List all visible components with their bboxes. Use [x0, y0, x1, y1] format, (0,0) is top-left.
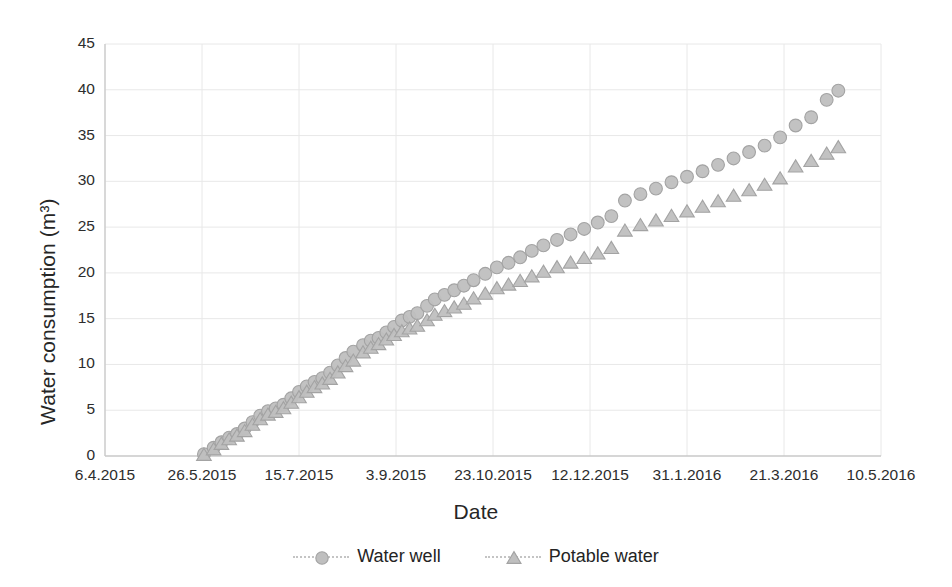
x-tick-4: 23.10.2015	[454, 466, 532, 484]
plot-area	[0, 0, 952, 587]
y-tick-30: 30	[51, 171, 95, 189]
y-tick-15: 15	[51, 309, 95, 327]
legend-label-0: Water well	[357, 546, 440, 567]
y-tick-35: 35	[51, 126, 95, 144]
x-tick-8: 10.5.2016	[847, 466, 916, 484]
x-tick-0: 6.4.2015	[75, 466, 135, 484]
x-axis-title: Date	[0, 500, 952, 524]
y-tick-5: 5	[51, 400, 95, 418]
x-tick-7: 21.3.2016	[750, 466, 819, 484]
y-tick-40: 40	[51, 80, 95, 98]
x-tick-5: 12.12.2015	[551, 466, 629, 484]
x-tick-1: 26.5.2015	[168, 466, 237, 484]
legend-marker-triangle-icon	[485, 548, 541, 566]
y-tick-25: 25	[51, 217, 95, 235]
x-tick-2: 15.7.2015	[265, 466, 334, 484]
chart-legend: Water wellPotable water	[0, 546, 952, 567]
legend-marker-circle-icon	[293, 548, 349, 566]
legend-item-1[interactable]: Potable water	[485, 546, 659, 567]
series-potable-water	[197, 141, 846, 461]
x-tick-3: 3.9.2015	[366, 466, 426, 484]
x-tick-6: 31.1.2016	[653, 466, 722, 484]
legend-label-1: Potable water	[549, 546, 659, 567]
y-tick-0: 0	[51, 446, 95, 464]
water-consumption-chart: Water consumption (m³) Date 051015202530…	[0, 0, 952, 587]
legend-item-0[interactable]: Water well	[293, 546, 440, 567]
y-tick-10: 10	[51, 354, 95, 372]
y-tick-20: 20	[51, 263, 95, 281]
y-tick-45: 45	[51, 34, 95, 52]
